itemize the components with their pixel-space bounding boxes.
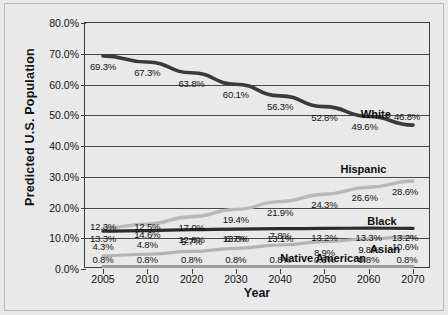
x-tick-mark <box>192 269 193 274</box>
data-label: 69.3% <box>90 60 116 71</box>
x-tick-mark <box>280 269 281 274</box>
x-axis-title: Year <box>84 286 430 300</box>
y-tick-label: 70.0% <box>19 48 79 60</box>
data-label: 13.3% <box>356 232 382 243</box>
data-label: 12.3% <box>90 221 116 232</box>
data-label: 49.6% <box>352 121 378 132</box>
series-name-white: White <box>361 108 391 120</box>
data-label: 17.0% <box>178 221 204 232</box>
data-label: 4.8% <box>137 239 158 250</box>
data-label: 12.5% <box>134 220 160 231</box>
x-tick-mark <box>369 269 370 274</box>
data-label: 24.3% <box>311 199 337 210</box>
y-tick-label: 20.0% <box>19 202 79 214</box>
series-name-hispanic: Hispanic <box>340 163 386 175</box>
data-label: 52.8% <box>311 111 337 122</box>
y-tick-label: 50.0% <box>19 109 79 121</box>
data-label: 0.8% <box>181 253 202 264</box>
y-tick-label: 30.0% <box>19 171 79 183</box>
data-label: 26.6% <box>352 192 378 203</box>
data-label: 0.8% <box>137 253 158 264</box>
series-name-native-american: Native American <box>280 252 366 264</box>
data-label: 63.8% <box>178 77 204 88</box>
series-name-black: Black <box>367 215 396 227</box>
data-label: 7.8% <box>270 230 291 241</box>
data-label: 19.4% <box>223 214 249 225</box>
y-tick-label: 80.0% <box>19 17 79 29</box>
data-label: 6.7% <box>225 233 246 244</box>
data-label: 0.8% <box>92 253 113 264</box>
chart-figure: Predicted U.S. Population Year 0.0%10.0%… <box>0 0 448 315</box>
data-label: 46.8% <box>394 111 420 122</box>
data-label: 56.3% <box>267 100 293 111</box>
x-tick-label: 2070 <box>383 273 443 285</box>
y-tick-label: 60.0% <box>19 79 79 91</box>
data-label: 21.9% <box>267 206 293 217</box>
x-tick-mark <box>413 269 414 274</box>
plot-area: 0.0%10.0%20.0%30.0%40.0%50.0%60.0%70.0%8… <box>84 22 430 268</box>
x-tick-mark <box>236 269 237 274</box>
y-tick-label: 0.0% <box>19 263 79 275</box>
x-tick-mark <box>324 269 325 274</box>
data-label: 4.3% <box>92 240 113 251</box>
series-name-asian: Asian <box>370 243 400 255</box>
data-label: 60.1% <box>223 89 249 100</box>
y-tick-mark <box>81 269 86 270</box>
data-label: 13.2% <box>311 232 337 243</box>
x-tick-mark <box>147 269 148 274</box>
y-tick-label: 10.0% <box>19 232 79 244</box>
x-tick-mark <box>103 269 104 274</box>
data-label: 67.3% <box>134 67 160 78</box>
data-label: 0.8% <box>225 253 246 264</box>
data-label: 28.6% <box>392 186 418 197</box>
y-tick-label: 40.0% <box>19 140 79 152</box>
data-label: 5.7% <box>181 236 202 247</box>
